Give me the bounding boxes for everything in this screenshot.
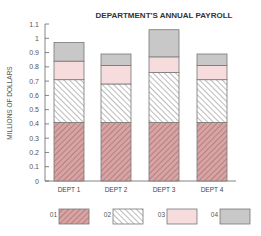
legend-swatch [220,209,250,224]
bar-segment-02 [197,80,227,123]
bar-segment-04 [197,54,227,65]
y-axis-label: MILLIONS OF DOLLARS [6,66,13,140]
y-tick-label: 0.5 [29,106,39,113]
y-tick-label: 0.2 [29,149,39,156]
y-tick-label: 1.1 [29,21,39,28]
bar-segment-01 [101,122,131,181]
y-tick-label: 0.1 [29,163,39,170]
bar-segment-02 [149,73,179,123]
y-tick-label: 0.9 [29,49,39,56]
x-axis-labels: DEPT 1DEPT 2DEPT 3DEPT 4 [58,186,224,193]
y-tick-label: 0 [35,178,39,185]
bar-segment-03 [197,65,227,79]
payroll-chart: DEPARTMENT'S ANNUAL PAYROLL MILLIONS OF … [0,0,261,236]
legend-label: 03 [158,211,166,218]
legend-swatch [113,209,143,224]
chart-title: DEPARTMENT'S ANNUAL PAYROLL [96,11,233,20]
bar-segment-01 [149,122,179,181]
bar-segment-03 [54,61,84,80]
x-tick-label: DEPT 2 [105,186,128,193]
x-tick-label: DEPT 4 [201,186,224,193]
legend-swatch [59,209,89,224]
bar-stack [54,43,84,181]
y-tick-label: 0.6 [29,92,39,99]
bar-stack [101,54,131,181]
bar-segment-03 [149,57,179,73]
bars [54,30,227,181]
legend-item-02: 02 [104,209,143,224]
bar-segment-02 [54,80,84,123]
legend-label: 04 [211,211,219,218]
x-tick-label: DEPT 1 [58,186,81,193]
y-tick-label: 1 [35,35,39,42]
legend: 01020304 [50,209,250,224]
bar-stack [197,54,227,181]
legend-item-01: 01 [50,209,89,224]
legend-item-03: 03 [158,209,197,224]
legend-item-04: 04 [211,209,250,224]
y-tick-label: 0.7 [29,78,39,85]
bar-segment-04 [149,30,179,57]
legend-label: 02 [104,211,112,218]
y-tick-label: 0.3 [29,135,39,142]
legend-swatch [167,209,197,224]
y-tick-label: 0.8 [29,63,39,70]
bar-segment-04 [54,43,84,62]
bar-segment-03 [101,65,131,84]
bar-segment-02 [101,84,131,123]
legend-label: 01 [50,211,58,218]
bar-segment-04 [101,54,131,65]
bar-segment-01 [197,122,227,181]
y-tick-label: 0.4 [29,120,39,127]
bar-segment-01 [54,122,84,181]
x-tick-label: DEPT 3 [153,186,176,193]
bar-stack [149,30,179,181]
